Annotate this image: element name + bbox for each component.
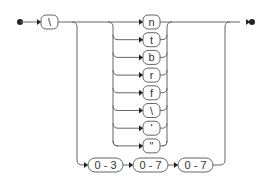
- svg-text:0 - 3: 0 - 3: [94, 159, 116, 171]
- terminal-choice: b: [113, 50, 167, 64]
- railroad-diagram: \ ntbrf\'" 0 - 30 - 70 - 7: [0, 0, 263, 183]
- terminal-choice: f: [113, 86, 167, 100]
- arrow-icon: [139, 54, 143, 60]
- svg-text:n: n: [148, 16, 154, 28]
- terminal-choice: r: [113, 68, 167, 82]
- arrow-icon: [139, 125, 143, 131]
- terminal-choice: n: [139, 15, 160, 29]
- svg-text:": ": [150, 140, 154, 152]
- svg-text:0 - 7: 0 - 7: [139, 159, 161, 171]
- svg-text:r: r: [150, 69, 154, 81]
- arrow-icon: [37, 19, 41, 25]
- arrow-icon: [139, 19, 143, 25]
- svg-text:b: b: [148, 51, 154, 63]
- arrow-icon: [84, 162, 88, 168]
- arrow-icon: [139, 143, 143, 149]
- terminal-octal: 0 - 7: [168, 158, 213, 172]
- arrow-icon: [129, 162, 133, 168]
- terminal-octal: 0 - 3: [84, 158, 123, 172]
- svg-text:t: t: [150, 34, 153, 46]
- svg-text:0 - 7: 0 - 7: [184, 159, 206, 171]
- terminal-choice: t: [113, 33, 167, 47]
- arrow-icon: [139, 72, 143, 78]
- terminal-octal: 0 - 7: [123, 158, 168, 172]
- terminal-choice: ': [113, 121, 167, 135]
- svg-text:': ': [150, 122, 152, 134]
- arrow-icon: [174, 162, 178, 168]
- arrow-icon: [139, 37, 143, 43]
- terminal-choice: ": [113, 139, 167, 153]
- terminal-choice: \: [113, 104, 167, 118]
- arrow-icon: [139, 90, 143, 96]
- arrow-icon: [139, 108, 143, 114]
- terminal-backslash: \: [41, 15, 58, 29]
- end-marker: [249, 19, 255, 25]
